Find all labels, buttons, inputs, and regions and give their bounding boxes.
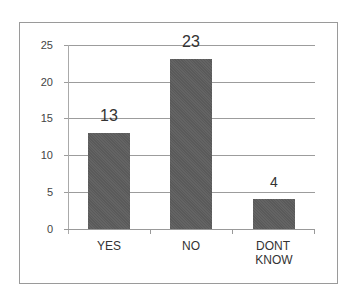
bar-dont-know: [253, 199, 295, 229]
data-label-dont-know: 4: [244, 174, 304, 190]
ytick-label-25: 25: [23, 39, 53, 51]
x-tick: [314, 229, 315, 234]
bar-yes: [88, 133, 130, 229]
x-label-dont-know-line2: KNOW: [239, 254, 309, 267]
bar-no: [170, 59, 212, 229]
x-label-dont-know-line1: DONT: [238, 240, 308, 253]
ytick-label-20: 20: [23, 76, 53, 88]
x-label-yes: YES: [74, 240, 144, 253]
data-label-no: 23: [161, 33, 221, 51]
ytick-label-5: 5: [23, 186, 53, 198]
x-axis: [64, 229, 315, 230]
ytick-label-10: 10: [23, 149, 53, 161]
y-axis: [68, 45, 69, 234]
x-tick: [150, 229, 151, 234]
ytick-label-0: 0: [23, 223, 53, 235]
x-tick: [232, 229, 233, 234]
x-label-no: NO: [156, 240, 226, 253]
ytick-label-15: 15: [23, 112, 53, 124]
data-label-yes: 13: [79, 107, 139, 125]
